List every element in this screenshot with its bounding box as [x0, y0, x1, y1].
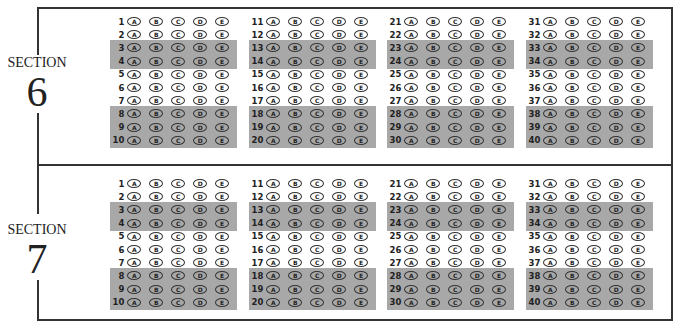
answer-bubble-d[interactable]: D: [193, 96, 207, 105]
answer-bubble-b[interactable]: B: [565, 232, 579, 241]
answer-bubble-e[interactable]: E: [492, 179, 506, 188]
answer-bubble-c[interactable]: C: [171, 136, 185, 145]
answer-bubble-c[interactable]: C: [587, 271, 601, 280]
answer-bubble-c[interactable]: C: [310, 83, 324, 92]
answer-bubble-e[interactable]: E: [631, 258, 645, 267]
answer-bubble-b[interactable]: B: [426, 109, 440, 118]
answer-bubble-d[interactable]: D: [609, 83, 623, 92]
answer-bubble-e[interactable]: E: [215, 96, 229, 105]
answer-bubble-a[interactable]: A: [127, 17, 141, 26]
answer-bubble-c[interactable]: C: [310, 57, 324, 66]
answer-bubble-e[interactable]: E: [215, 43, 229, 52]
answer-bubble-c[interactable]: C: [448, 219, 462, 228]
answer-bubble-b[interactable]: B: [565, 57, 579, 66]
answer-bubble-c[interactable]: C: [310, 192, 324, 201]
answer-bubble-b[interactable]: B: [565, 109, 579, 118]
answer-bubble-b[interactable]: B: [565, 123, 579, 132]
answer-bubble-a[interactable]: A: [266, 17, 280, 26]
answer-bubble-c[interactable]: C: [587, 245, 601, 254]
answer-bubble-a[interactable]: A: [266, 285, 280, 294]
answer-bubble-b[interactable]: B: [565, 205, 579, 214]
answer-bubble-c[interactable]: C: [448, 179, 462, 188]
answer-bubble-e[interactable]: E: [492, 70, 506, 79]
answer-bubble-c[interactable]: C: [587, 30, 601, 39]
answer-bubble-c[interactable]: C: [171, 70, 185, 79]
answer-bubble-e[interactable]: E: [492, 245, 506, 254]
answer-bubble-d[interactable]: D: [193, 245, 207, 254]
answer-bubble-d[interactable]: D: [470, 245, 484, 254]
answer-bubble-c[interactable]: C: [171, 17, 185, 26]
answer-bubble-d[interactable]: D: [193, 205, 207, 214]
answer-bubble-c[interactable]: C: [310, 271, 324, 280]
answer-bubble-c[interactable]: C: [448, 83, 462, 92]
answer-bubble-a[interactable]: A: [543, 298, 557, 307]
answer-bubble-d[interactable]: D: [332, 271, 346, 280]
answer-bubble-e[interactable]: E: [354, 258, 368, 267]
answer-bubble-b[interactable]: B: [149, 96, 163, 105]
answer-bubble-b[interactable]: B: [565, 298, 579, 307]
answer-bubble-d[interactable]: D: [332, 205, 346, 214]
answer-bubble-c[interactable]: C: [171, 83, 185, 92]
answer-bubble-d[interactable]: D: [470, 43, 484, 52]
answer-bubble-e[interactable]: E: [215, 298, 229, 307]
answer-bubble-b[interactable]: B: [288, 123, 302, 132]
answer-bubble-c[interactable]: C: [448, 245, 462, 254]
answer-bubble-e[interactable]: E: [492, 205, 506, 214]
answer-bubble-b[interactable]: B: [149, 57, 163, 66]
answer-bubble-d[interactable]: D: [470, 83, 484, 92]
answer-bubble-c[interactable]: C: [310, 136, 324, 145]
answer-bubble-e[interactable]: E: [492, 17, 506, 26]
answer-bubble-a[interactable]: A: [127, 70, 141, 79]
answer-bubble-b[interactable]: B: [288, 179, 302, 188]
answer-bubble-b[interactable]: B: [565, 192, 579, 201]
answer-bubble-b[interactable]: B: [149, 136, 163, 145]
answer-bubble-d[interactable]: D: [609, 70, 623, 79]
answer-bubble-a[interactable]: A: [266, 219, 280, 228]
answer-bubble-a[interactable]: A: [266, 83, 280, 92]
answer-bubble-a[interactable]: A: [543, 96, 557, 105]
answer-bubble-c[interactable]: C: [171, 219, 185, 228]
answer-bubble-b[interactable]: B: [426, 298, 440, 307]
answer-bubble-e[interactable]: E: [631, 285, 645, 294]
answer-bubble-b[interactable]: B: [288, 298, 302, 307]
answer-bubble-b[interactable]: B: [565, 83, 579, 92]
answer-bubble-e[interactable]: E: [354, 219, 368, 228]
answer-bubble-a[interactable]: A: [266, 232, 280, 241]
answer-bubble-b[interactable]: B: [288, 232, 302, 241]
answer-bubble-a[interactable]: A: [127, 298, 141, 307]
answer-bubble-c[interactable]: C: [171, 123, 185, 132]
answer-bubble-d[interactable]: D: [332, 298, 346, 307]
answer-bubble-b[interactable]: B: [565, 219, 579, 228]
answer-bubble-e[interactable]: E: [631, 109, 645, 118]
answer-bubble-d[interactable]: D: [193, 83, 207, 92]
answer-bubble-a[interactable]: A: [404, 271, 418, 280]
answer-bubble-a[interactable]: A: [543, 285, 557, 294]
answer-bubble-b[interactable]: B: [565, 258, 579, 267]
answer-bubble-a[interactable]: A: [404, 192, 418, 201]
answer-bubble-a[interactable]: A: [404, 123, 418, 132]
answer-bubble-e[interactable]: E: [492, 136, 506, 145]
answer-bubble-a[interactable]: A: [127, 96, 141, 105]
answer-bubble-e[interactable]: E: [631, 70, 645, 79]
answer-bubble-d[interactable]: D: [470, 96, 484, 105]
answer-bubble-e[interactable]: E: [492, 219, 506, 228]
answer-bubble-e[interactable]: E: [631, 271, 645, 280]
answer-bubble-c[interactable]: C: [171, 96, 185, 105]
answer-bubble-b[interactable]: B: [149, 258, 163, 267]
answer-bubble-a[interactable]: A: [127, 30, 141, 39]
answer-bubble-e[interactable]: E: [631, 136, 645, 145]
answer-bubble-b[interactable]: B: [426, 17, 440, 26]
answer-bubble-e[interactable]: E: [492, 232, 506, 241]
answer-bubble-e[interactable]: E: [492, 30, 506, 39]
answer-bubble-b[interactable]: B: [149, 245, 163, 254]
answer-bubble-c[interactable]: C: [587, 136, 601, 145]
answer-bubble-b[interactable]: B: [565, 96, 579, 105]
answer-bubble-a[interactable]: A: [543, 179, 557, 188]
answer-bubble-d[interactable]: D: [470, 17, 484, 26]
answer-bubble-e[interactable]: E: [492, 192, 506, 201]
answer-bubble-b[interactable]: B: [149, 192, 163, 201]
answer-bubble-e[interactable]: E: [354, 83, 368, 92]
answer-bubble-d[interactable]: D: [193, 43, 207, 52]
answer-bubble-b[interactable]: B: [565, 136, 579, 145]
answer-bubble-c[interactable]: C: [310, 70, 324, 79]
